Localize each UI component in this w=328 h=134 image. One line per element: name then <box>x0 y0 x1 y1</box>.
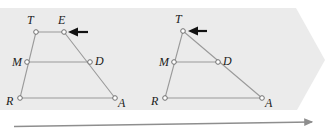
vertex-M[interactable] <box>172 60 177 65</box>
geometry-illustration: T E M D R A <box>0 0 328 134</box>
vertex-label-D: D <box>222 54 232 68</box>
vertex-A[interactable] <box>113 96 118 101</box>
vertex-label-A: A <box>264 96 273 110</box>
figure-canvas: T E M D R A <box>0 0 328 134</box>
vertex-D[interactable] <box>88 60 93 65</box>
vertex-D[interactable] <box>216 60 221 65</box>
timeline-arrow-shaft <box>14 122 312 127</box>
vertex-label-E: E <box>57 13 66 27</box>
vertex-T[interactable] <box>181 29 186 34</box>
vertex-M[interactable] <box>25 60 30 65</box>
vertex-R[interactable] <box>163 96 168 101</box>
vertex-label-M: M <box>158 55 170 69</box>
vertex-label-D: D <box>94 54 104 68</box>
vertex-R[interactable] <box>18 96 23 101</box>
vertex-label-R: R <box>5 94 14 108</box>
vertex-A[interactable] <box>260 96 265 101</box>
timeline-arrow <box>14 122 312 127</box>
vertex-E[interactable] <box>62 30 67 35</box>
vertex-T[interactable] <box>34 30 39 35</box>
vertex-label-M: M <box>11 55 23 69</box>
vertex-label-A: A <box>117 96 126 110</box>
vertex-label-R: R <box>150 94 159 108</box>
